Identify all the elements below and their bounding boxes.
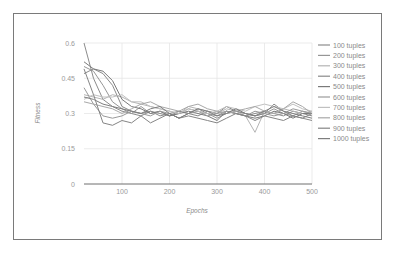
y-tick-label: 0.45 (61, 75, 75, 82)
legend-label: 100 tuples (333, 42, 366, 50)
y-tick-label: 0.6 (65, 40, 75, 47)
x-tick-label: 400 (259, 188, 271, 195)
legend-label: 400 tuples (333, 73, 366, 81)
x-axis-title: Epochs (186, 207, 208, 215)
legend-label: 500 tuples (333, 83, 366, 91)
legend-label: 1000 tuples (333, 135, 370, 143)
x-tick-label: 300 (211, 188, 223, 195)
x-axis-ticks: 100200300400500 (116, 188, 318, 195)
x-tick-label: 100 (116, 188, 128, 195)
series-line (84, 69, 312, 121)
x-tick-label: 500 (306, 188, 318, 195)
legend-label: 700 tuples (333, 104, 366, 112)
legend-label: 300 tuples (333, 62, 366, 70)
y-tick-label: 0 (71, 181, 75, 188)
legend-label: 900 tuples (333, 125, 366, 133)
legend-label: 200 tuples (333, 52, 366, 60)
legend: 100 tuples200 tuples300 tuples400 tuples… (318, 42, 370, 144)
y-tick-label: 0.15 (61, 145, 75, 152)
y-tick-label: 0.3 (65, 110, 75, 117)
y-axis-ticks: 00.150.30.450.6 (61, 40, 75, 188)
legend-label: 800 tuples (333, 114, 366, 122)
y-axis-title: Fitness (34, 102, 41, 124)
line-chart: 00.150.30.450.6 100200300400500 Fitness … (0, 0, 399, 257)
legend-label: 600 tuples (333, 94, 366, 102)
x-tick-label: 200 (164, 188, 176, 195)
series-lines (84, 43, 312, 132)
series-line (84, 43, 312, 116)
